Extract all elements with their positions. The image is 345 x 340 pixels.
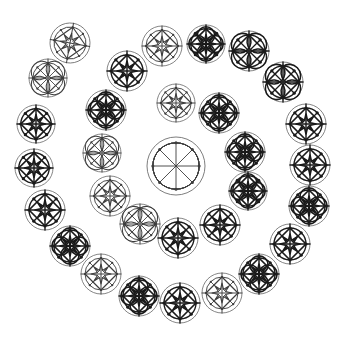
motif-node (220, 42, 223, 45)
motif-node (192, 236, 195, 239)
motif-node (246, 205, 249, 208)
motif-node (57, 233, 60, 236)
motif-node (32, 197, 35, 200)
rosette-motif (158, 218, 198, 258)
motif-node (68, 228, 71, 231)
rosette-motif (286, 104, 326, 144)
motif-node (58, 88, 60, 90)
motif-node (221, 276, 223, 278)
motif-node (150, 34, 152, 36)
motif-node (109, 179, 111, 181)
motif-node (137, 81, 140, 84)
motif-node (161, 61, 163, 63)
motif-node (101, 137, 103, 139)
rosette-pattern-svg (0, 0, 345, 340)
motif-node (316, 111, 319, 114)
motif-node (229, 123, 232, 126)
motif-node (188, 225, 191, 228)
rosette-motif (81, 254, 121, 294)
motif-node (84, 273, 86, 275)
motif-node (243, 134, 246, 137)
motif-node (265, 80, 268, 83)
rosette-motif (107, 51, 147, 91)
motif-node (207, 235, 210, 238)
rosette-motif (50, 226, 90, 266)
motif-node (319, 216, 322, 219)
motif-node (34, 107, 37, 110)
motif-node (281, 64, 284, 67)
rosette-motif (270, 224, 310, 264)
motif-node (178, 285, 181, 288)
motif-node (160, 236, 163, 239)
motif-node (272, 242, 275, 245)
motif-node (236, 200, 239, 203)
rosette-motif (90, 176, 130, 216)
motif-node (215, 53, 218, 56)
motif-node (123, 223, 125, 225)
motif-node (149, 283, 152, 286)
motif-node (111, 262, 113, 264)
motif-node (186, 91, 188, 93)
motif-node (172, 34, 174, 36)
rosette-motif (119, 276, 159, 316)
rosette-motif (160, 283, 200, 323)
motif-node (304, 106, 307, 109)
motif-node (86, 152, 88, 154)
motif-node (98, 206, 100, 208)
motif-node (204, 27, 207, 30)
motif-node (207, 212, 210, 215)
motif-node (149, 306, 152, 309)
motif-node (165, 248, 168, 251)
motif-node (247, 65, 250, 68)
motif-node (150, 234, 152, 236)
motif-node (320, 152, 323, 155)
rosette-motif (142, 26, 182, 66)
motif-node (257, 256, 260, 259)
motif-node (176, 252, 179, 255)
motif-node (288, 122, 291, 125)
motif-node (246, 261, 249, 264)
motif-node (47, 92, 49, 94)
motif-node (194, 301, 197, 304)
motif-node (58, 66, 60, 68)
motif-node (104, 124, 107, 127)
motif-node (246, 284, 249, 287)
motif-node (259, 150, 262, 153)
motif-node (55, 220, 58, 223)
motif-node (19, 122, 22, 125)
motif-node (57, 256, 60, 259)
motif-node (137, 58, 140, 61)
motif-node (210, 303, 212, 305)
rosette-motif (290, 145, 330, 185)
motif-node (145, 45, 147, 47)
motif-node (237, 292, 239, 294)
motif-node (22, 177, 25, 180)
motif-node (120, 108, 123, 111)
motif-node (100, 257, 102, 259)
motif-node (190, 313, 193, 316)
rosette-motif (157, 84, 195, 122)
motif-node (109, 69, 112, 72)
motif-node (155, 223, 157, 225)
motif-node (84, 244, 87, 247)
motif-node (125, 85, 128, 88)
center-motif-layer (147, 137, 205, 195)
motif-node (206, 123, 209, 126)
motif-node (89, 262, 91, 264)
rosette-motif (25, 190, 65, 230)
motif-node (293, 134, 296, 137)
motif-node (116, 152, 118, 154)
motif-node (188, 248, 191, 251)
motif-node (277, 231, 280, 234)
motif-node (234, 223, 237, 226)
motif-node (158, 181, 161, 184)
motif-node (255, 139, 258, 142)
motif-node (319, 193, 322, 196)
motif-node (175, 188, 178, 191)
motif-node (150, 56, 152, 58)
motif-node (232, 139, 235, 142)
motif-node (90, 141, 92, 143)
motif-node (232, 281, 234, 283)
motif-node (36, 88, 38, 90)
motif-node (164, 91, 166, 93)
